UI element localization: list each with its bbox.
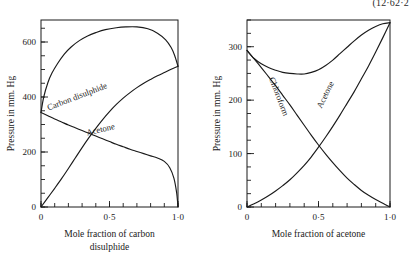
y-tick-label: 600 [23, 37, 37, 47]
x-tick-label: 1·0 [384, 212, 396, 222]
y-axis-title-left: Pressure in mm. Hg [6, 76, 16, 152]
y-tick-label: 300 [229, 42, 243, 52]
x-tick-label: 0·5 [104, 212, 116, 222]
y-tick-label: 0 [238, 202, 243, 212]
vapour-pressure-figure: (12·62·2 00·51·00200400600Pressure in mm… [0, 0, 415, 264]
x-axis-title-left: Mole fraction of carbon [64, 229, 155, 239]
plot-frame-right [247, 20, 390, 207]
curve-label-carbon-disulphide: Carbon disulphide [46, 80, 109, 112]
y-tick-label: 200 [23, 147, 37, 157]
x-axis-title-left: disulphide [90, 242, 130, 252]
charts-svg: 00·51·00200400600Pressure in mm. HgMole … [0, 0, 415, 264]
x-axis-title-right: Mole fraction of acetone [272, 229, 366, 239]
y-tick-label: 400 [23, 92, 37, 102]
x-tick-label: 0·5 [313, 212, 325, 222]
curve-chloroform [247, 50, 390, 207]
curve-label-chloroform: Chloroform [267, 76, 291, 118]
x-tick-label: 0 [245, 212, 250, 222]
y-tick-label: 100 [229, 149, 243, 159]
y-axis-title-right: Pressure in mm. Hg [212, 76, 222, 152]
x-tick-label: 0 [39, 212, 44, 222]
curve-acetone [247, 23, 390, 207]
curve-label-acetone: Acetone [314, 79, 336, 109]
curve-label-acetone: Acetone [86, 121, 116, 137]
curve-carbon-disulphide [41, 66, 178, 207]
y-tick-label: 0 [32, 202, 37, 212]
y-tick-label: 200 [229, 95, 243, 105]
x-tick-label: 1·0 [172, 212, 184, 222]
chart-left: 00·51·00200400600Pressure in mm. HgMole … [6, 20, 184, 252]
chart-right: 00·51·00100200300Pressure in mm. HgMole … [212, 20, 396, 239]
figure-corner-note: (12·62·2 [372, 0, 409, 8]
